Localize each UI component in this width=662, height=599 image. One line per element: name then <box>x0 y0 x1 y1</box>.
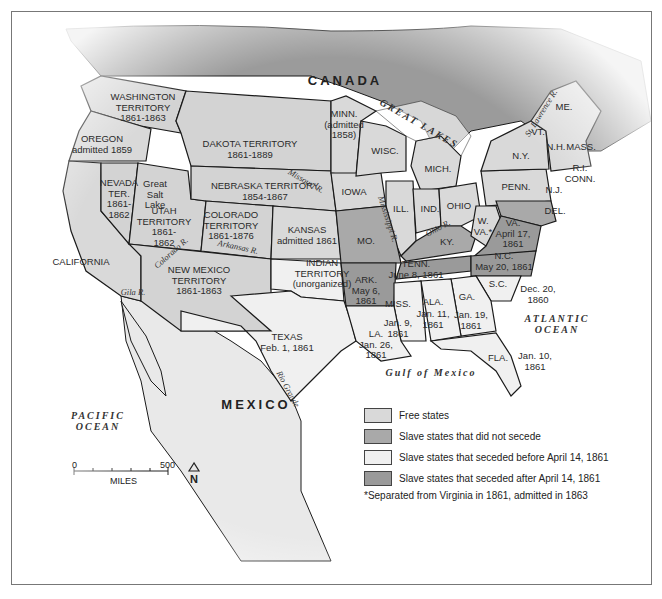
state-label-tennessee: TENN.June 8, 1861 <box>389 259 444 280</box>
legend-label: Slave states that seceded after April 14… <box>399 473 600 484</box>
ocean-label-atlantic: ATLANTICOCEAN <box>525 314 590 335</box>
legend-label: Slave states that did not secede <box>399 431 541 442</box>
state-label-maine: ME. <box>556 102 573 113</box>
state-label-california: CALIFORNIA <box>52 257 109 268</box>
legend-swatch-free <box>364 408 392 423</box>
state-label-indian: INDIANTERRITORY(unorganized) <box>293 258 352 290</box>
state-label-georgia: GA. <box>459 292 475 303</box>
state-label-louisiana: LA.Jan. 26,1861 <box>359 329 393 361</box>
state-label-illinois: ILL. <box>393 204 409 215</box>
state-label-ohio: OHIO <box>447 201 471 212</box>
state-label-rhodeisland: R.I.CONN. <box>565 163 596 184</box>
legend-swatch-seceded-after <box>364 471 392 486</box>
state-label-michigan: MICH. <box>425 164 452 175</box>
legend-item-free: Free states <box>364 405 652 426</box>
state-label-colorado: COLORADOTERRITORY1861-1876 <box>204 210 259 242</box>
map-frame: WASHINGTONTERRITORY1861-1863OREGONadmitt… <box>11 11 652 585</box>
state-label-al_date: Jan. 11,1861 <box>416 309 449 330</box>
state-label-newhampshire: N.H. <box>547 142 566 153</box>
legend-footnote: *Separated from Virginia in 1861, admitt… <box>364 490 652 501</box>
state-label-kansas: KANSASadmitted 1861 <box>277 225 337 246</box>
state-label-nevada: NEVADATER.1861-1862 <box>100 178 138 220</box>
gulf-label: Gulf of Mexico <box>386 368 477 379</box>
state-label-indiana: IND. <box>421 204 440 215</box>
river-label: Gila R. <box>121 287 146 298</box>
state-label-delaware: DEL. <box>544 206 565 217</box>
legend-swatch-seceded-before <box>364 450 392 465</box>
state-label-newjersey: N.J. <box>546 185 563 196</box>
state-label-virginia: VA.April 17,1861 <box>496 218 531 250</box>
state-label-fl_date: Jan. 10,1861 <box>518 351 552 372</box>
map-legend: Free states Slave states that did not se… <box>364 405 652 501</box>
state-label-mississippi: MISS. <box>385 299 411 310</box>
country-label-mexico: MEXICO <box>221 400 290 411</box>
legend-label: Slave states that seceded before April 1… <box>399 452 609 463</box>
state-label-northcarolina: N.C.May 20, 1861 <box>475 251 533 272</box>
state-label-greatsaltlake: GreatSaltLake <box>143 179 167 211</box>
state-label-alabama: ALA. <box>423 297 444 308</box>
state-label-florida: FLA. <box>488 353 508 364</box>
state-label-missouri: MO. <box>357 236 375 247</box>
state-label-dakota: DAKOTA TERRITORY1861-1889 <box>203 139 298 160</box>
north-label: N <box>187 473 201 485</box>
state-label-minnesota: MINN.(admitted1858) <box>324 109 364 141</box>
state-label-wisconsin: WISC. <box>371 146 398 157</box>
scale-unit: MILES <box>110 476 137 486</box>
state-label-pennsylvania: PENN. <box>501 182 530 193</box>
scale-zero: 0 <box>72 460 77 470</box>
state-label-arkansas: ARK.May 6,1861 <box>352 275 381 307</box>
state-label-iowa: IOWA <box>342 187 367 198</box>
legend-label: Free states <box>399 410 449 421</box>
state-label-washington: WASHINGTONTERRITORY1861-1863 <box>111 92 176 124</box>
legend-item-slave-not-seceded: Slave states that did not secede <box>364 426 652 447</box>
state-label-westvirginia: W.VA.* <box>474 216 492 237</box>
state-label-southcarolina: S.C. <box>489 279 507 290</box>
state-label-texas: TEXASFeb. 1, 1861 <box>260 332 313 353</box>
state-label-oregon: OREGONadmitted 1859 <box>72 134 132 155</box>
scale-max: 500 <box>160 460 175 470</box>
state-label-ga_date: Jan. 19,1861 <box>454 310 488 331</box>
state-label-sc_date: Dec. 20,1860 <box>520 284 555 305</box>
state-label-massachusetts: MASS. <box>566 142 596 153</box>
legend-item-seceded-before: Slave states that seceded before April 1… <box>364 447 652 468</box>
state-label-newyork: N.Y. <box>512 151 529 162</box>
legend-swatch-slave-not-seceded <box>364 429 392 444</box>
legend-item-seceded-after: Slave states that seceded after April 14… <box>364 468 652 489</box>
state-label-kentucky: KY. <box>440 237 454 248</box>
state-label-newmexico: NEW MEXICOTERRITORY1861-1863 <box>168 265 230 297</box>
ocean-label-pacific: PACIFICOCEAN <box>71 411 125 432</box>
country-label-canada: CANADA <box>308 76 382 87</box>
